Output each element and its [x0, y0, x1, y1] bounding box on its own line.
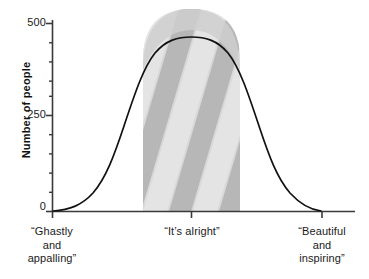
- x-tick-label-ghastly-line1: “Ghastly: [0, 225, 106, 239]
- striped-flame-shape: [68, 0, 305, 215]
- x-tick-label-ghastly: “Ghastly and appalling”: [0, 225, 106, 266]
- x-tick-label-ghastly-line3: appalling”: [0, 252, 106, 266]
- x-tick-label-beautiful: “Beautiful and inspiring”: [268, 225, 369, 266]
- x-tick-label-alright-line1: “It’s alright”: [138, 225, 246, 239]
- y-tick-label-0: 0: [18, 200, 46, 212]
- x-tick-label-ghastly-line2: and: [0, 239, 106, 253]
- y-major-ticks: [46, 24, 53, 212]
- y-tick-label-500: 500: [18, 16, 46, 28]
- y-axis-title: Number of people: [20, 35, 32, 185]
- chart-figure: 500 250 0 Number of people “Ghastly and …: [0, 0, 369, 279]
- x-major-ticks: [53, 212, 323, 219]
- x-tick-label-beautiful-line2: and: [268, 239, 369, 253]
- x-tick-label-alright: “It’s alright”: [138, 225, 246, 239]
- x-tick-label-beautiful-line1: “Beautiful: [268, 225, 369, 239]
- x-tick-label-beautiful-line3: inspiring”: [268, 252, 369, 266]
